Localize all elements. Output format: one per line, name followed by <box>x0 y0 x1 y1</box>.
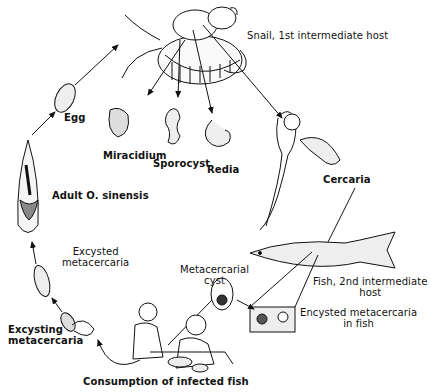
label-fish: Fish, 2nd intermediate host <box>313 276 427 298</box>
label-excysting: Excysting metacercaria <box>8 324 83 346</box>
label-excysted-line2: metacercaria <box>62 257 129 268</box>
label-encysted-line1: Encysted metacercaria <box>300 307 417 318</box>
label-consumption: Consumption of infected fish <box>83 376 249 387</box>
label-fish-line1: Fish, 2nd intermediate <box>313 276 427 287</box>
label-snail: Snail, 1st intermediate host <box>247 30 388 41</box>
label-adult: Adult O. sinensis <box>52 190 149 201</box>
label-excysting-line1: Excysting <box>8 324 83 335</box>
snail-icon <box>122 7 246 84</box>
label-egg: Egg <box>64 112 85 123</box>
label-excysted-line1: Excysted <box>62 246 129 257</box>
label-excysted: Excysted metacercaria <box>62 246 129 268</box>
people-eating-icon <box>133 303 233 372</box>
label-excysting-line2: metacercaria <box>8 335 83 346</box>
label-cercaria: Cercaria <box>323 174 371 185</box>
label-encysted: Encysted metacercaria in fish <box>300 307 417 329</box>
label-sporocyst: Sporocyst <box>153 158 210 169</box>
label-redia: Redia <box>207 164 239 175</box>
label-cyst-line1: Metacercarial <box>180 264 249 275</box>
label-cyst: Metacercarial cyst <box>180 264 249 286</box>
label-encysted-line2: in fish <box>300 318 417 329</box>
label-fish-line2: host <box>313 287 427 298</box>
label-cyst-line2: cyst <box>180 275 249 286</box>
